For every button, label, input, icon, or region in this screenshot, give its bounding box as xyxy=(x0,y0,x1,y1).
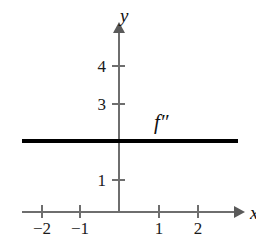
x-axis-tick-label: 1 xyxy=(155,220,164,237)
y-axis-label: y xyxy=(120,6,128,25)
x-axis-tick xyxy=(79,205,81,218)
y-axis-tick xyxy=(112,179,125,181)
x-axis-line xyxy=(22,211,238,213)
y-axis-tick-label: 4 xyxy=(88,58,106,75)
x-axis-arrow-icon xyxy=(234,206,245,218)
x-axis-tick xyxy=(197,205,199,218)
y-axis-tick xyxy=(112,103,125,105)
graph-figure: −2−112 431 f″ y x xyxy=(0,0,256,245)
x-axis-tick-label: 2 xyxy=(194,220,203,237)
y-axis-tick-label: 1 xyxy=(88,172,106,189)
x-axis-tick xyxy=(41,205,43,218)
x-axis-tick xyxy=(158,205,160,218)
y-axis-line xyxy=(118,28,120,213)
curve-label-f-double-prime: f″ xyxy=(154,112,169,133)
y-axis-tick xyxy=(112,65,125,67)
x-axis-tick-label: −1 xyxy=(71,220,89,237)
function-curve-f-double-prime xyxy=(22,139,238,143)
x-axis-tick-label: −2 xyxy=(33,220,51,237)
x-axis-label: x xyxy=(250,203,256,222)
y-axis-tick-label: 3 xyxy=(88,96,106,113)
